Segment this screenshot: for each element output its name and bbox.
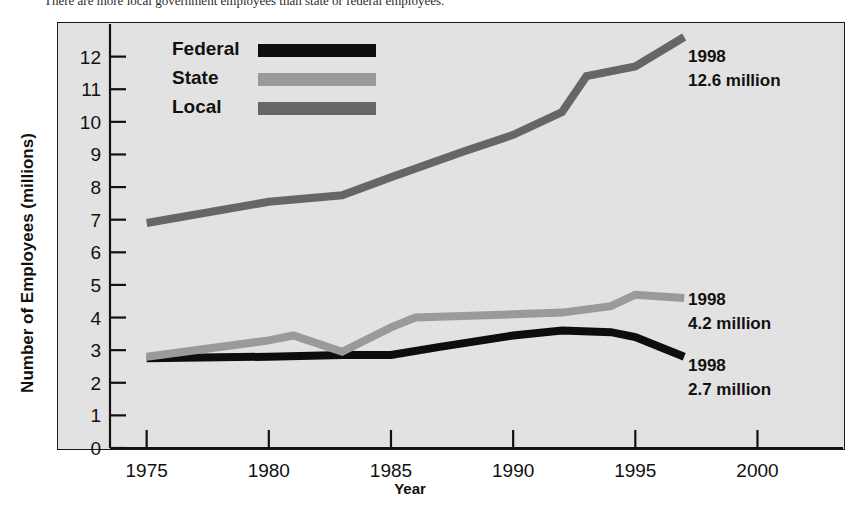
y-axis-tick-label: 4 [90,308,101,329]
y-axis-tick-label: 8 [90,177,101,198]
y-axis-tick-label: 3 [90,340,101,361]
y-axis-tick-label: 5 [90,275,101,296]
x-axis-group: 197519801985199019952000 [126,430,779,481]
annotation-year-state-1998: 1998 [688,290,726,309]
legend-label-federal: Federal [172,38,240,59]
legend-label-local: Local [172,96,222,117]
legend-swatch-local [258,102,376,115]
y-axis-tick-label: 12 [80,47,101,68]
legend-swatch-federal [258,44,376,57]
y-axis-tick-label: 1 [90,405,101,426]
x-axis-tick-label: 1995 [614,460,656,481]
legend-swatch-state [258,73,376,86]
legend-label-state: State [172,67,218,88]
plot-svg: 0123456789101112 19751980198519901995200… [0,0,863,510]
x-axis-tick-label: 1980 [248,460,290,481]
y-axis-tick-label: 9 [90,144,101,165]
annotation-year-local-1998: 1998 [688,47,726,66]
y-axis-tick-label: 11 [81,79,101,100]
y-axis-tick-label: 0 [90,438,101,459]
y-axis-tick-label: 10 [80,112,101,133]
x-axis-tick-label: 2000 [736,460,778,481]
annotation-group: 199812.6 million19984.2 million19982.7 m… [688,47,781,399]
y-axis-tick-label: 2 [90,373,101,394]
y-axis-tick-label: 7 [90,210,101,231]
annotation-value-local-1998: 12.6 million [688,71,781,90]
annotation-year-federal-1998: 1998 [688,356,726,375]
chart-figure: There are more local government employee… [0,0,863,510]
annotation-value-federal-1998: 2.7 million [688,380,771,399]
x-axis-tick-label: 1985 [370,460,412,481]
y-axis-tick-label: 6 [90,242,101,263]
x-axis-tick-label: 1975 [126,460,168,481]
series-line-local [147,37,685,223]
y-axis-group: 0123456789101112 [80,47,126,459]
series-group [147,37,685,358]
annotation-value-state-1998: 4.2 million [688,314,771,333]
x-axis-tick-label: 1990 [492,460,534,481]
legend-group: FederalStateLocal [172,38,376,117]
